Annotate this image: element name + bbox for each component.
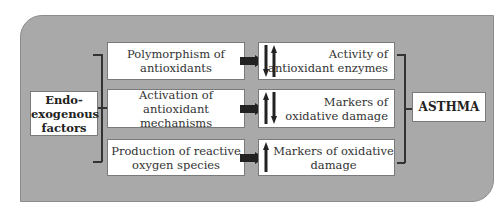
effect-3-line-1: Markers of oxidative xyxy=(273,144,394,158)
process-box-ros-production: Production of reactive oxygen species xyxy=(107,139,245,176)
left-bracket-bottom-tick xyxy=(93,161,102,163)
effect-3-line-2: damage xyxy=(273,158,394,172)
effect-2-line-1: Markers of xyxy=(259,95,388,109)
effect-1-line-1: Activity of xyxy=(259,47,388,61)
source-label-line-2: exogenous xyxy=(31,107,97,121)
trend-arrows-row-3 xyxy=(263,142,269,172)
trend-arrows-row-2 xyxy=(263,92,277,124)
process-3-line-1: Production of reactive xyxy=(108,144,244,158)
right-bracket-top-tick xyxy=(397,54,405,56)
process-2-line-1: Activation of xyxy=(108,88,244,102)
arrow-up-icon xyxy=(263,142,269,172)
effect-box-antioxidant-enzyme-activity: Activity of antioxidant enzymes xyxy=(258,42,395,80)
process-2-line-2: antioxidant mechanisms xyxy=(108,102,244,130)
right-bracket-connector-to-outcome xyxy=(404,108,412,110)
arrow-down-icon xyxy=(271,92,277,124)
arrow-down-icon xyxy=(263,45,269,77)
process-1-line-1: Polymorphism of xyxy=(108,47,244,61)
arrow-up-icon xyxy=(263,92,269,124)
arrow-up-icon xyxy=(271,45,277,77)
effect-box-oxidative-damage-markers-2: Markers of oxidative damage xyxy=(258,139,395,176)
process-3-line-2: oxygen species xyxy=(108,158,244,172)
effect-2-line-2: oxidative damage xyxy=(259,109,388,123)
effect-box-oxidative-damage-markers-1: Markers of oxidative damage xyxy=(258,89,395,128)
process-box-activation: Activation of antioxidant mechanisms xyxy=(107,89,245,128)
effect-1-line-2: antioxidant enzymes xyxy=(259,61,388,75)
right-bracket-bottom-tick xyxy=(397,162,405,164)
left-bracket-top-tick xyxy=(93,54,102,56)
trend-arrows-row-1 xyxy=(263,45,277,77)
outcome-label: ASTHMA xyxy=(413,100,485,114)
source-label-line-3: factors xyxy=(31,121,97,135)
process-box-polymorphism: Polymorphism of antioxidants xyxy=(107,42,245,80)
source-box-endo-exogenous-factors: Endo- exogenous factors xyxy=(30,91,98,136)
outcome-box-asthma: ASTHMA xyxy=(412,92,486,122)
process-1-line-2: antioxidants xyxy=(108,61,244,75)
source-label-line-1: Endo- xyxy=(31,93,97,107)
